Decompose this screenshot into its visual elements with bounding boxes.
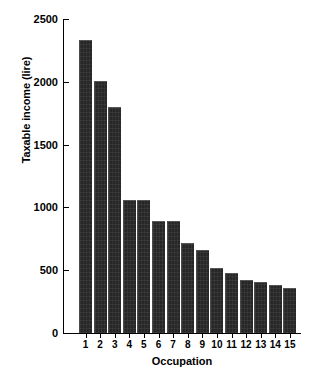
y-axis-title: Taxable income (lire) [20,30,32,190]
bar [79,40,92,333]
bar [167,221,180,333]
x-axis-title: Occupation [63,355,301,367]
x-tick-mark [232,334,233,338]
bar [283,288,296,333]
y-tick-label: 500 [0,265,58,276]
x-tick-mark [159,334,160,338]
x-tick-label: 15 [280,339,300,350]
x-axis-line [63,333,301,334]
bar [94,81,107,333]
x-tick-mark [173,334,174,338]
x-tick-mark [144,334,145,338]
y-tick-mark [64,207,69,208]
y-axis-line [63,19,64,334]
bar [210,268,223,333]
x-tick-mark [86,334,87,338]
x-tick-mark [188,334,189,338]
bar-chart-figure: Taxable income (lire) 050010001500200025… [0,0,323,382]
x-tick-mark [115,334,116,338]
y-tick-label: 0 [0,328,58,339]
y-tick-label: 2000 [0,77,58,88]
x-tick-mark [100,334,101,338]
bar [108,107,121,333]
y-tick-mark [64,145,69,146]
y-tick-label: 1000 [0,202,58,213]
y-tick-mark [64,270,69,271]
x-tick-mark [246,334,247,338]
x-tick-mark [275,334,276,338]
x-tick-mark [202,334,203,338]
x-tick-mark [290,334,291,338]
bar [137,200,150,333]
x-tick-mark [261,334,262,338]
y-tick-label: 1500 [0,140,58,151]
bar [254,282,267,333]
bar [196,250,209,333]
bar [123,200,136,333]
bar [240,280,253,333]
y-tick-mark [64,19,69,20]
bar [269,285,282,333]
bar [225,273,238,333]
y-tick-mark [64,82,69,83]
bar [181,243,194,333]
y-tick-label: 2500 [0,14,58,25]
x-tick-mark [217,334,218,338]
y-tick-mark [64,333,69,334]
bar [152,221,165,333]
x-tick-mark [129,334,130,338]
